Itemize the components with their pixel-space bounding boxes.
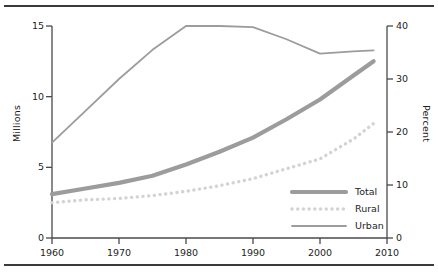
left-axis-tick-label: 0 [20, 232, 44, 243]
left-axis-tick-label: 15 [20, 20, 44, 31]
legend-swatches [292, 192, 346, 226]
chart-figure: Millions Percent 05101501020304019601970… [0, 0, 438, 277]
right-axis-tick-label: 30 [396, 73, 420, 84]
left-axis-tick-label: 5 [20, 161, 44, 172]
left-axis-ticks [46, 26, 52, 238]
x-axis-tick-label: 1970 [99, 247, 139, 258]
left-axis-tick-label: 10 [20, 91, 44, 102]
x-axis-tick-label: 1960 [32, 247, 72, 258]
right-axis-title: Percent [421, 94, 432, 154]
right-axis-ticks [387, 26, 393, 238]
right-axis-tick-label: 0 [396, 232, 420, 243]
legend-label-rural: Rural [355, 203, 380, 214]
right-axis-tick-label: 20 [396, 126, 420, 137]
x-axis-tick-label: 2000 [300, 247, 340, 258]
right-axis-tick-label: 40 [396, 20, 420, 31]
left-axis-title: Millions [11, 94, 22, 154]
x-axis-tick-label: 1980 [166, 247, 206, 258]
right-axis-tick-label: 10 [396, 179, 420, 190]
legend-label-urban: Urban [355, 220, 384, 231]
plot-area [0, 0, 438, 277]
series-layer [52, 26, 374, 203]
x-axis-tick-label: 2010 [367, 247, 407, 258]
legend-label-total: Total [355, 186, 377, 197]
series-line-urban [52, 26, 374, 143]
series-line-total [52, 61, 374, 194]
axis-lines [52, 26, 387, 238]
x-axis-ticks [52, 238, 387, 244]
x-axis-tick-label: 1990 [233, 247, 273, 258]
